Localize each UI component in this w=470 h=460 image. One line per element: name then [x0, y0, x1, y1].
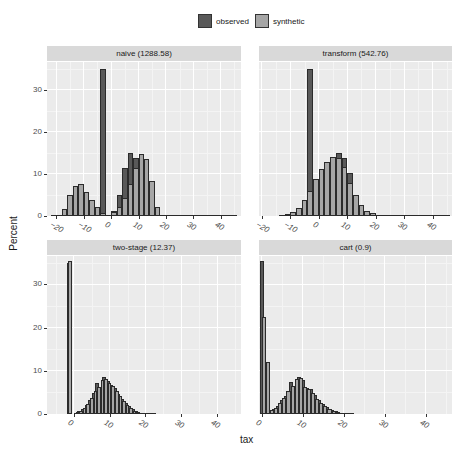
bar-observed [153, 413, 157, 414]
grid-line-minor [323, 256, 324, 414]
grid-line-minor [259, 263, 452, 264]
y-tick-mark [44, 284, 47, 285]
x-tick-label: 0 [104, 220, 112, 230]
grid-line-minor [418, 62, 419, 216]
y-tick-mark [44, 132, 47, 133]
legend: observed synthetic [198, 14, 311, 28]
grid-line-minor [97, 62, 98, 216]
panel-title: naive (1288.58) [47, 46, 241, 61]
y-tick-mark [44, 90, 47, 91]
x-tick-mark [217, 414, 218, 417]
grid-line-major [56, 62, 57, 216]
grid-line-major [73, 256, 74, 414]
grid-line-minor [180, 62, 181, 216]
x-tick-label: 40 [425, 220, 437, 232]
grid-line-minor [47, 69, 241, 70]
x-tick-mark [303, 414, 304, 417]
bar-synthetic [266, 362, 270, 414]
grid-line-minor [56, 256, 57, 414]
grid-line-major [181, 256, 182, 414]
grid-line-minor [199, 256, 200, 414]
bar-observed [100, 69, 105, 216]
y-tick-label: 0 [22, 409, 42, 418]
x-tick-mark [74, 414, 75, 417]
x-tick-mark [145, 414, 146, 417]
grid-line-major [290, 62, 291, 216]
grid-line-major [375, 62, 376, 216]
panel-naive: naive (1288.58) [47, 46, 241, 216]
grid-line-major [343, 256, 344, 414]
grid-line-major [111, 62, 112, 216]
grid-line-minor [163, 256, 164, 414]
grid-line-major [404, 62, 405, 216]
grid-line-minor [235, 256, 236, 414]
legend-item-observed: observed [198, 14, 249, 28]
panel-title: two-stage (12.37) [47, 240, 241, 255]
x-tick-mark [262, 216, 263, 219]
grid-line-minor [259, 306, 452, 307]
x-tick-label: 40 [213, 220, 225, 232]
x-tick-label: 20 [336, 418, 348, 430]
grid-line-major [193, 62, 194, 216]
x-tick-label: −10 [76, 220, 92, 235]
bar-observed [444, 215, 450, 216]
x-tick-mark [262, 414, 263, 417]
y-tick-mark [44, 174, 47, 175]
x-tick-mark [221, 216, 222, 219]
x-tick-mark [290, 216, 291, 219]
x-tick-mark [166, 216, 167, 219]
grid-line-minor [234, 62, 235, 216]
grid-line-major [47, 131, 241, 132]
grid-line-minor [70, 62, 71, 216]
x-axis-title: tax [240, 434, 253, 445]
grid-line-major [145, 256, 146, 414]
x-tick-mark [110, 414, 111, 417]
legend-label-synthetic: synthetic [273, 17, 305, 26]
y-tick-label: 30 [22, 279, 42, 288]
grid-line-minor [92, 256, 93, 414]
grid-line-minor [405, 256, 406, 414]
x-tick-label: 20 [138, 418, 150, 430]
x-tick-label: 40 [210, 418, 222, 430]
grid-line-minor [390, 62, 391, 216]
grid-line-minor [259, 349, 452, 350]
x-tick-label: 30 [377, 418, 389, 430]
grid-line-minor [128, 256, 129, 414]
y-tick-label: 30 [22, 85, 42, 94]
grid-line-major [220, 62, 221, 216]
x-tick-label: 0 [66, 418, 74, 428]
grid-line-minor [446, 256, 447, 414]
grid-line-minor [207, 62, 208, 216]
grid-line-major [259, 284, 452, 285]
y-tick-mark [44, 216, 47, 217]
grid-line-minor [259, 69, 452, 70]
x-tick-label: 0 [254, 418, 262, 428]
plot-area [259, 256, 452, 414]
grid-line-minor [361, 62, 362, 216]
grid-line-major [259, 370, 452, 371]
x-tick-label: 10 [131, 220, 143, 232]
x-tick-label: −20 [254, 220, 270, 235]
x-tick-mark [426, 414, 427, 417]
grid-line-minor [447, 62, 448, 216]
grid-line-major [425, 256, 426, 414]
x-tick-mark [193, 216, 194, 219]
x-tick-label: 10 [295, 418, 307, 430]
x-tick-label: 30 [174, 418, 186, 430]
grid-line-minor [282, 256, 283, 414]
bar-observed [232, 215, 237, 216]
y-tick-label: 20 [22, 127, 42, 136]
panel-title: transform (542.76) [259, 46, 452, 61]
x-tick-label: 40 [418, 418, 430, 430]
legend-label-observed: observed [216, 17, 249, 26]
x-tick-mark [376, 216, 377, 219]
x-tick-label: 0 [311, 220, 319, 230]
legend-key-synthetic [255, 14, 269, 28]
grid-line-major [217, 256, 218, 414]
grid-line-major [384, 256, 385, 414]
grid-line-major [432, 62, 433, 216]
grid-line-major [259, 327, 452, 328]
plot-area [47, 256, 241, 414]
legend-item-synthetic: synthetic [255, 14, 305, 28]
grid-line-major [259, 89, 452, 90]
